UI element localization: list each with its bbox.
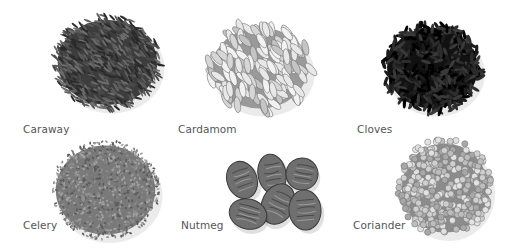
seed-texture <box>405 186 411 192</box>
seed-texture <box>487 177 493 183</box>
seed-texture <box>456 183 462 189</box>
seed-texture <box>105 140 109 144</box>
seed-texture <box>422 180 428 186</box>
seed-texture <box>473 204 479 210</box>
seed-texture <box>442 177 448 183</box>
seed-texture <box>441 228 447 234</box>
seed-texture <box>449 217 455 223</box>
seed-texture <box>465 201 471 207</box>
seed-texture <box>453 137 459 143</box>
seed-texture <box>473 180 479 186</box>
seed-texture <box>142 171 145 173</box>
seed-texture <box>100 140 103 144</box>
seed-texture <box>415 200 421 206</box>
seed-texture <box>422 207 428 213</box>
seed-texture <box>120 143 124 146</box>
seed-texture <box>447 138 453 144</box>
seed-texture <box>401 175 407 181</box>
spice-label-cloves: Cloves <box>357 123 392 135</box>
seed-texture <box>485 188 491 194</box>
seed-texture <box>56 169 59 173</box>
seed-texture <box>456 165 462 171</box>
seed-texture <box>486 169 492 175</box>
seed-texture <box>465 182 471 188</box>
seed-texture <box>462 169 468 175</box>
seed-texture <box>53 181 56 185</box>
seed-texture <box>482 197 488 203</box>
spice-label-cardamom: Cardamom <box>178 123 237 135</box>
seed-texture <box>434 193 440 199</box>
seed-texture <box>428 150 434 156</box>
seed-texture <box>140 152 144 155</box>
celery-image <box>48 135 163 245</box>
spice-label-celery: Celery <box>23 219 57 231</box>
seed-texture <box>454 207 460 213</box>
seed-texture <box>411 186 417 192</box>
seed-texture <box>115 140 118 144</box>
spice-label-nutmeg: Nutmeg <box>181 219 224 231</box>
seed-texture <box>473 197 479 203</box>
seed-texture <box>412 156 418 162</box>
seed-texture <box>463 147 469 153</box>
seed-texture <box>458 156 464 162</box>
seed-texture <box>89 142 91 145</box>
seed-texture <box>441 147 447 153</box>
seed-texture <box>482 207 488 213</box>
seed-texture <box>443 201 449 207</box>
seed-texture <box>402 205 408 211</box>
seed-texture <box>425 229 431 235</box>
seed-texture <box>438 214 444 220</box>
seed-texture <box>432 160 438 166</box>
seed-texture <box>56 165 59 169</box>
seed-texture <box>435 137 441 143</box>
seed-texture <box>475 210 481 216</box>
seed-texture <box>479 175 485 181</box>
seed-texture <box>396 184 402 190</box>
seed-texture <box>131 183 133 186</box>
seed-texture <box>453 226 459 232</box>
seed-texture <box>479 183 485 189</box>
coriander-image <box>395 133 495 243</box>
seed-texture <box>447 209 453 215</box>
seed-texture <box>448 191 454 197</box>
seed-texture <box>474 216 480 222</box>
seed-texture <box>417 211 423 217</box>
seed-texture <box>400 198 406 204</box>
seed-texture <box>118 141 122 144</box>
seed-texture <box>133 147 135 150</box>
seed-texture <box>429 188 435 194</box>
spice-label-coriander: Coriander <box>353 219 405 231</box>
seed-texture <box>420 222 426 228</box>
caraway-image <box>50 10 165 115</box>
seed-texture <box>423 190 429 196</box>
seed-texture <box>401 163 407 169</box>
seed-texture <box>430 221 436 227</box>
seed-texture <box>61 160 64 164</box>
seed-texture <box>448 150 454 156</box>
seed-texture <box>469 219 475 225</box>
seed-texture <box>456 189 462 195</box>
seed-texture <box>425 174 431 180</box>
cloves-image <box>380 18 485 118</box>
seed-texture <box>83 18 91 23</box>
seed-texture <box>420 170 426 176</box>
seed-texture <box>462 141 468 147</box>
nutmeg-image <box>222 152 324 244</box>
seed-texture <box>399 192 405 198</box>
seed-texture <box>435 169 441 175</box>
seed-texture <box>412 221 418 227</box>
seed-texture <box>460 177 466 183</box>
seed-texture <box>249 84 256 100</box>
seed-texture <box>466 213 472 219</box>
seed-texture <box>464 154 470 160</box>
cardamom-image <box>205 18 315 118</box>
seed-texture <box>418 147 424 153</box>
seed-texture <box>427 156 433 162</box>
seed-texture <box>421 163 427 169</box>
spice-label-caraway: Caraway <box>23 123 69 135</box>
seed-texture <box>477 158 483 164</box>
seed-texture <box>434 204 440 210</box>
seed-texture <box>445 185 451 191</box>
seed-texture <box>460 225 466 231</box>
seed-texture <box>425 139 431 145</box>
